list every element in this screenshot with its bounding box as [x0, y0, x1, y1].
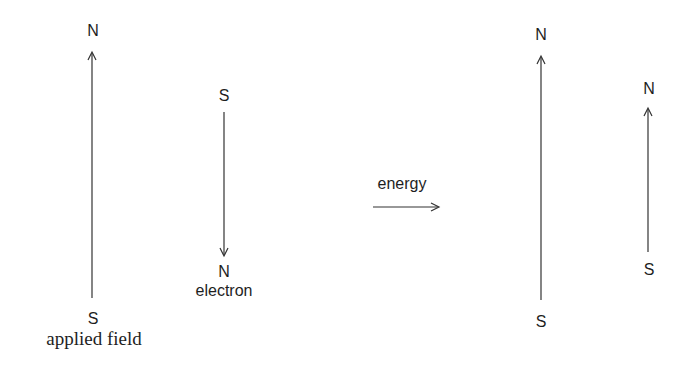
- electron-after-north-label: N: [643, 81, 655, 97]
- arrows-layer: [0, 0, 687, 373]
- electron-arrow-before: [220, 112, 228, 256]
- energy-transition-arrow: [373, 203, 439, 211]
- applied-field-arrow-before: [88, 52, 96, 298]
- applied-field-before-south-label: S: [88, 311, 99, 327]
- applied-field-before-north-label: N: [87, 23, 99, 39]
- applied-field-arrow-after: [537, 56, 545, 300]
- applied-field-after-south-label: S: [536, 314, 547, 330]
- electron-after-south-label: S: [644, 262, 655, 278]
- electron-arrow-after: [644, 108, 652, 252]
- electron-before-south-label: S: [219, 88, 230, 104]
- applied-field-caption: applied field: [46, 329, 142, 348]
- electron-caption: electron: [196, 283, 253, 299]
- diagram-canvas: N S applied field S N electron energy N …: [0, 0, 687, 373]
- applied-field-after-north-label: N: [535, 27, 547, 43]
- energy-label: energy: [378, 176, 427, 192]
- electron-before-north-label: N: [218, 264, 230, 280]
